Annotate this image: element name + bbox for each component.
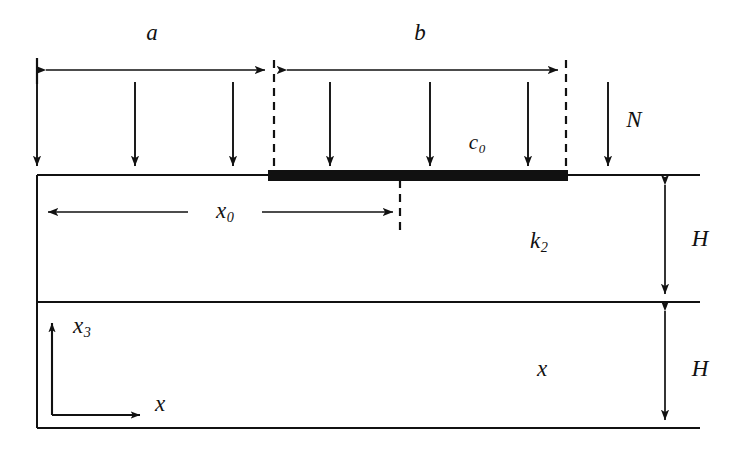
loaded-strip-bar — [268, 170, 568, 181]
figure-canvas: a b N c0 x0 k2 x H H x3 x — [0, 0, 737, 450]
label-load-c0-base: c — [469, 130, 478, 154]
label-layer-lower-x: x — [537, 357, 547, 380]
label-axis-x3: x3 — [73, 314, 91, 339]
label-load-c0-sub: 0 — [479, 140, 486, 155]
diagram-svg — [0, 0, 737, 450]
label-distance-x0: x0 — [216, 199, 234, 224]
label-layer-upper-sub: 2 — [541, 239, 548, 255]
dimension-span-a — [37, 58, 265, 84]
label-load-N: N — [626, 108, 641, 131]
label-axis-x3-base: x — [73, 313, 83, 338]
label-layer-upper-base: k — [530, 228, 540, 253]
label-span-a: a — [146, 21, 158, 44]
label-load-c0: c0 — [469, 132, 485, 155]
label-distance-x0-base: x — [216, 198, 226, 223]
domain-outline — [37, 175, 700, 428]
coordinate-axes — [52, 323, 140, 415]
label-layer-upper-k2: k2 — [530, 229, 548, 254]
label-distance-x0-sub: 0 — [227, 209, 234, 225]
label-span-b: b — [414, 21, 426, 44]
load-arrow-group — [37, 82, 608, 166]
label-height-upper-H: H — [692, 227, 709, 250]
label-axis-x: x — [155, 392, 165, 415]
label-axis-x3-sub: 3 — [84, 324, 91, 340]
label-height-lower-H: H — [692, 357, 709, 380]
